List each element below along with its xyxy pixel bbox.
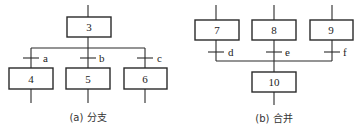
step-label-4: 4 [28,73,34,85]
transition-label-a: a [43,52,48,64]
transition-label-f: f [343,46,347,58]
transition-label-c: c [157,52,162,64]
step-label-6: 6 [142,73,148,85]
step-label-7: 7 [214,24,220,36]
step-label-8: 8 [271,24,277,36]
transition-label-d: d [228,46,234,58]
sfc-diagram: 3 a b c 4 5 6 (a) 分支 7 8 9 [0,0,361,131]
step-label-10: 10 [269,76,281,88]
caption-b: (b) 合并 [255,112,292,124]
step-label-9: 9 [328,24,334,36]
step-label-3: 3 [86,21,92,33]
transition-label-b: b [99,52,105,64]
caption-a: (a) 分支 [69,112,106,123]
transition-label-e: e [285,46,290,58]
diagram-b-merge: 7 8 9 d e f 10 (b) 合并 [195,5,353,124]
diagram-a-branch: 3 a b c 4 5 6 (a) 分支 [9,5,167,123]
step-label-5: 5 [85,73,91,85]
